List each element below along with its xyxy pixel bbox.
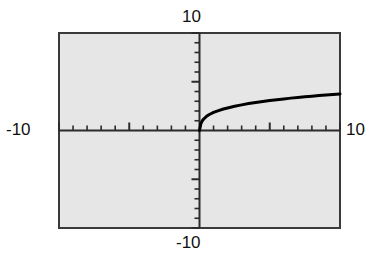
graph-figure: 10 10 -10 -10 [0,0,377,261]
axis-label-bottom: -10 [176,234,201,251]
plot-area-frame [58,32,341,229]
axis-label-left: -10 [6,121,31,138]
axis-label-top: 10 [182,8,201,25]
axis-label-right: 10 [346,121,365,138]
